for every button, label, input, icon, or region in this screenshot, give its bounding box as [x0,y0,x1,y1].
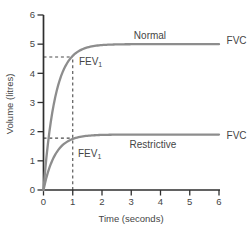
y-tick-label: 1 [30,155,35,166]
x-axis-title: Time (seconds) [98,213,163,224]
axes-group: 01234560123456 [30,9,222,207]
y-tick-label: 3 [30,97,35,108]
normal-curve-label: Normal [134,30,166,41]
restrictive-fev1-label: FEV1 [78,148,101,160]
x-tick-label: 5 [187,196,192,207]
x-tick-label: 4 [158,196,163,207]
curves-group [44,44,220,190]
y-tick-label: 6 [30,9,35,20]
x-tick-label: 3 [129,196,134,207]
spirometry-figure: 01234560123456 NormalFVCFEV1RestrictiveF… [0,0,251,233]
curve-normal [44,44,220,190]
y-axis-title: Volume (litres) [4,74,15,135]
x-tick-label: 1 [70,196,75,207]
normal-fev1-label: FEV1 [79,56,102,68]
x-tick-label: 6 [216,196,221,207]
y-tick-label: 2 [30,126,35,137]
spirometry-chart: 01234560123456 NormalFVCFEV1RestrictiveF… [0,0,251,233]
restrictive-fvc-label: FVC [227,130,247,141]
x-tick-label: 2 [99,196,104,207]
restrictive-curve-label: Restrictive [130,139,177,150]
axes-spine [44,15,221,190]
x-tick-label: 0 [41,196,46,207]
y-tick-label: 4 [30,68,35,79]
annotation-labels-group: NormalFVCFEV1RestrictiveFVCFEV1 [78,30,247,160]
normal-fvc-label: FVC [227,35,247,46]
y-tick-label: 0 [30,184,35,195]
y-tick-label: 5 [30,38,35,49]
